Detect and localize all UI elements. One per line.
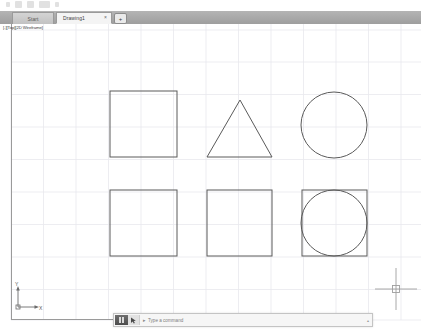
shape-circle-top-right[interactable] [301,92,367,158]
quick-access-icon-group [6,0,126,8]
crosshair-cursor [375,268,417,310]
undo-icon[interactable] [15,1,22,8]
viewport-boundary [11,24,370,320]
command-input-placeholder[interactable]: Type a command [148,318,183,323]
command-prompt-area[interactable]: ▸ Type a command [143,318,183,323]
shape-triangle-top-middle[interactable] [207,100,272,157]
drawing-viewport[interactable]: [-][Top][2D Wireframe] [0,24,421,321]
command-cursor-icon[interactable] [128,315,140,325]
prompt-chevron-icon: ▸ [143,318,146,323]
ucs-y-label: Y [15,281,19,287]
quick-access-toolbar [0,0,421,11]
plot-icon[interactable] [39,1,50,8]
document-tab-bar: Start Drawing1 × + [0,11,421,25]
viewport-control-label[interactable]: [-][Top][2D Wireframe] [3,25,43,30]
ucs-x-label: X [39,305,43,311]
save-icon[interactable] [6,2,10,7]
shape-square-bottom-left[interactable] [110,190,177,256]
command-line[interactable]: ▸ Type a command ▴ [113,313,373,327]
shape-square-bottom-middle[interactable] [207,190,272,256]
close-icon[interactable]: × [104,15,107,20]
redo-icon[interactable] [27,1,34,8]
grid-lines [11,24,421,320]
shape-circle-inscribed-bottom-right[interactable] [301,190,367,256]
command-scroll-icon[interactable]: ▴ [365,318,370,323]
new-tab-icon[interactable]: + [114,13,127,24]
arrow-cursor-glyph [130,317,137,324]
command-line-grip[interactable] [115,315,128,325]
tab-start[interactable]: Start [12,12,54,24]
dropdown-icon[interactable] [55,2,59,7]
viewport-canvas[interactable]: Y X [0,24,421,321]
shape-square-top-left[interactable] [110,91,177,157]
